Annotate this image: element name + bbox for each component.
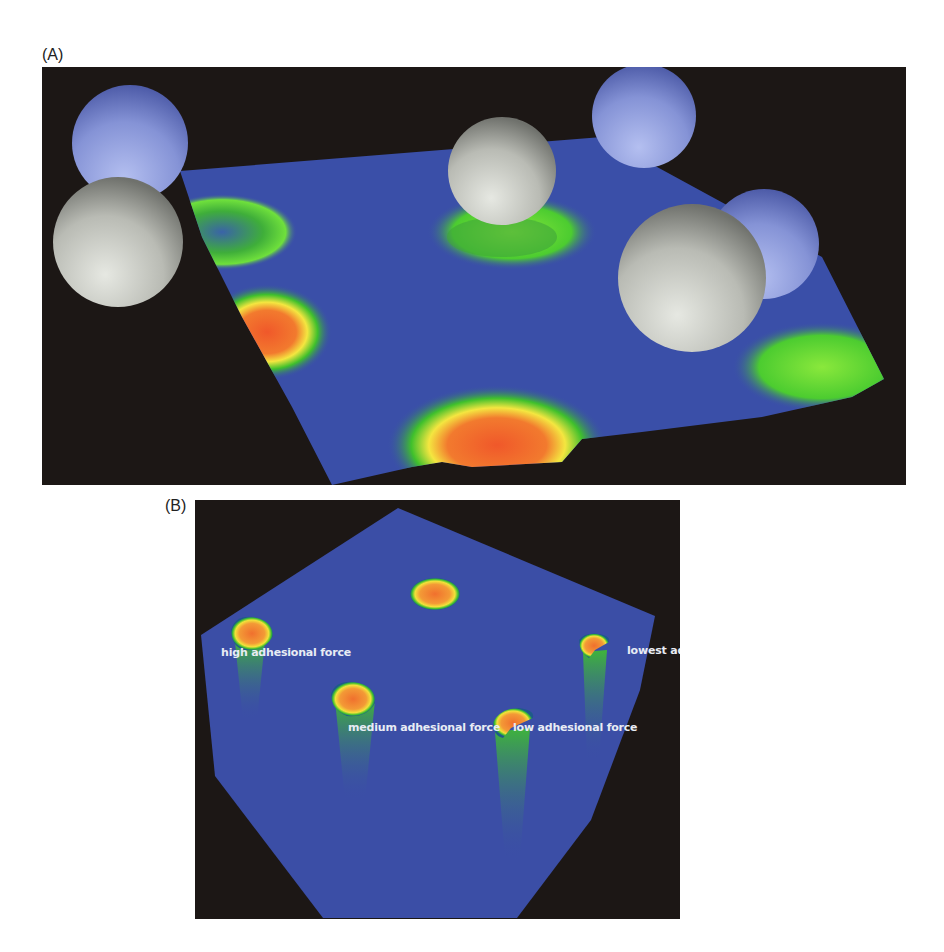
- grey-sphere-3: [618, 204, 766, 352]
- annotation-low: low adhesional force: [513, 721, 637, 734]
- panel-b-scene: [195, 500, 680, 919]
- panel-a-scene: [42, 67, 906, 485]
- annotation-lowest: lowest adhesional force: [627, 644, 680, 657]
- blue-sphere-2: [592, 67, 696, 168]
- panel-b-label: (B): [165, 497, 186, 515]
- annotation-medium: medium adhesional force: [348, 721, 500, 734]
- panel-a-label: (A): [42, 46, 63, 64]
- grey-sphere-2: [448, 117, 556, 225]
- grey-sphere-1: [53, 177, 183, 307]
- panel-b-render: high adhesional force medium adhesional …: [195, 500, 680, 919]
- pit-top: [410, 578, 460, 610]
- annotation-high: high adhesional force: [221, 646, 351, 659]
- panel-a-render: [42, 67, 906, 485]
